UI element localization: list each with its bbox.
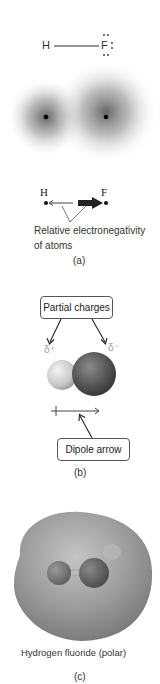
- delta-plus-label: δ⁺: [44, 344, 55, 355]
- f-atom-dot: [104, 201, 108, 205]
- electronegativity-caption-line2: of atoms: [34, 240, 72, 251]
- f-sphere: [72, 352, 116, 396]
- panel-a-label: (a): [73, 255, 85, 266]
- h-atom-dot: [44, 201, 48, 205]
- dipole-pointer-arrow: [80, 416, 92, 438]
- dipole-arrow-label: Dipole arrow: [65, 444, 121, 455]
- lewis-h-label: H: [42, 39, 50, 51]
- lewis-f-label: F: [101, 39, 108, 51]
- diagram-graphics: [0, 0, 160, 684]
- f-ball: [79, 558, 109, 588]
- partial-arrow-left: [50, 319, 61, 342]
- dipole-arrow-box: Dipole arrow: [57, 438, 130, 461]
- partial-charges-label: Partial charges: [43, 302, 110, 313]
- f-thick-arrow: [78, 200, 94, 206]
- f-nucleus-dot: [104, 115, 109, 120]
- partial-arrow-right: [92, 319, 105, 342]
- h-nucleus-dot: [44, 115, 49, 120]
- electronegativity-caption-line1: Relative electronegativity: [34, 225, 145, 236]
- en-h-label: H: [40, 186, 48, 198]
- panel-c-label: (c): [74, 671, 86, 682]
- delta-minus-label: δ⁻: [108, 342, 119, 353]
- caption-pointer: [62, 206, 86, 222]
- h-ball: [47, 561, 71, 585]
- hydrogen-fluoride-caption: Hydrogen fluoride (polar): [21, 647, 126, 658]
- en-f-label: F: [101, 186, 107, 198]
- partial-charges-box: Partial charges: [40, 296, 113, 319]
- f-electron-cloud: [54, 60, 158, 164]
- panel-b-label: (b): [74, 467, 86, 478]
